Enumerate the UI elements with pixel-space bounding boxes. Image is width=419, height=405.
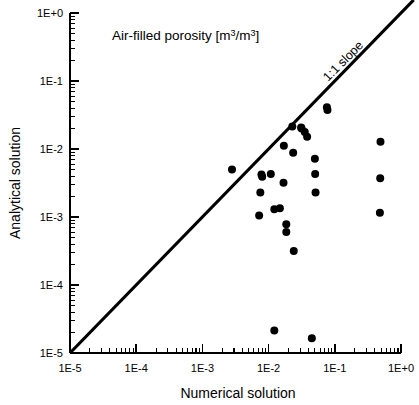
data-point: [280, 142, 288, 150]
data-point: [270, 326, 278, 334]
y-tick-label: 1E-3: [40, 211, 63, 223]
slope-annotation-label: 1:1 slope: [320, 38, 366, 84]
y-axis-title: Analytical solution: [7, 127, 23, 239]
chart-title: Air-filled porosity [m3/m3]: [112, 28, 259, 43]
scatter-plot-figure: 1E-51E-41E-31E-21E-11E+0 1E-51E-41E-31E-…: [0, 0, 419, 405]
y-tick-label: 1E+0: [37, 7, 63, 19]
data-point: [290, 247, 298, 255]
data-point: [311, 170, 319, 178]
data-point: [258, 173, 266, 181]
x-tick-label: 1E-1: [323, 362, 346, 374]
data-point: [376, 174, 384, 182]
data-point: [276, 204, 284, 212]
data-point: [323, 106, 331, 114]
y-tick-label: 1E-5: [40, 347, 63, 359]
data-point: [267, 170, 275, 178]
identity-line: [70, 0, 414, 353]
data-point: [312, 188, 320, 196]
data-point: [376, 209, 384, 217]
data-point: [255, 212, 263, 220]
one-to-one-reference-line: [70, 0, 414, 353]
data-point: [311, 155, 319, 163]
y-tick-label: 1E-1: [40, 75, 63, 87]
x-tick-label: 1E-5: [58, 362, 81, 374]
data-point: [288, 122, 296, 130]
data-point: [308, 334, 316, 342]
x-tick-label: 1E-2: [257, 362, 280, 374]
data-point: [280, 179, 288, 187]
x-axis-ticks: [70, 344, 401, 353]
x-axis-title: Numerical solution: [180, 385, 295, 401]
x-tick-label: 1E-3: [191, 362, 214, 374]
y-axis-tick-labels: 1E-51E-41E-31E-21E-11E+0: [37, 7, 63, 359]
data-point: [376, 138, 384, 146]
data-point: [289, 149, 297, 157]
x-axis-tick-labels: 1E-51E-41E-31E-21E-11E+0: [58, 362, 414, 374]
data-point: [282, 220, 290, 228]
y-axis-ticks: [70, 13, 79, 353]
chart-canvas: 1E-51E-41E-31E-21E-11E+0 1E-51E-41E-31E-…: [0, 0, 419, 405]
x-tick-label: 1E+0: [388, 362, 414, 374]
data-point: [303, 133, 311, 141]
x-tick-label: 1E-4: [125, 362, 148, 374]
y-tick-label: 1E-4: [40, 279, 63, 291]
data-point: [256, 188, 264, 196]
data-point: [282, 228, 290, 236]
data-points: [228, 103, 384, 342]
data-point: [228, 165, 236, 173]
y-tick-label: 1E-2: [40, 143, 63, 155]
